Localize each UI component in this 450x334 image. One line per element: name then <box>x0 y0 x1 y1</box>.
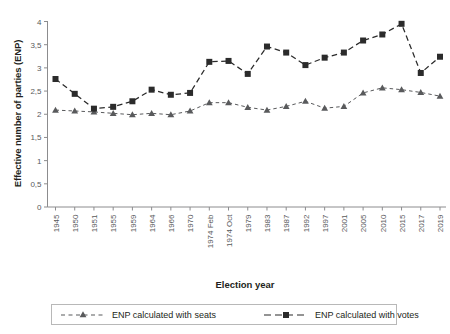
legend-item-votes[interactable]: ENP calculated with votes <box>263 305 419 324</box>
data-point-votes <box>129 98 135 104</box>
chart-figure: Effective number of parties (ENP) Electi… <box>0 0 450 334</box>
data-point-votes <box>322 55 328 61</box>
y-tick-label: 2,5 <box>30 87 42 96</box>
x-tick-label: 2019 <box>436 214 445 232</box>
x-tick-label: 1997 <box>321 214 330 232</box>
x-tick-label: 2017 <box>417 214 426 232</box>
data-point-seats <box>302 98 309 104</box>
x-tick-label: 1970 <box>186 214 195 232</box>
data-point-votes <box>283 50 289 56</box>
data-point-votes <box>399 21 405 27</box>
x-tick-label: 2010 <box>379 214 388 232</box>
x-tick-label: 1959 <box>129 214 138 232</box>
data-point-votes <box>437 54 443 60</box>
x-tick-label: 2001 <box>340 214 349 232</box>
y-tick-label: 0,5 <box>30 180 42 189</box>
data-point-votes <box>264 44 270 50</box>
legend-item-seats[interactable]: ENP calculated with seats <box>60 305 216 324</box>
legend-label-votes: ENP calculated with votes <box>315 310 419 320</box>
data-point-votes <box>379 31 385 37</box>
data-point-seats <box>148 110 155 116</box>
x-tick-label: 1966 <box>167 214 176 232</box>
data-point-seats <box>225 99 232 105</box>
x-tick-label: 1951 <box>90 214 99 232</box>
data-point-seats <box>340 103 347 109</box>
data-point-votes <box>360 38 366 44</box>
x-tick-label: 1974 Oct <box>225 214 234 247</box>
data-point-votes <box>168 92 174 98</box>
x-tick-label: 1945 <box>52 214 61 232</box>
data-point-votes <box>302 62 308 68</box>
data-point-votes <box>341 50 347 56</box>
y-tick-label: 1 <box>37 157 42 166</box>
y-tick-label: 1,5 <box>30 133 42 142</box>
data-point-votes <box>72 91 78 97</box>
x-tick-label: 1950 <box>71 214 80 232</box>
data-point-votes <box>226 58 232 64</box>
x-tick-label: 1983 <box>263 214 272 232</box>
data-point-votes <box>149 87 155 93</box>
data-point-votes <box>53 76 59 82</box>
x-tick-label: 2005 <box>359 214 368 232</box>
x-tick-label: 1979 <box>244 214 253 232</box>
y-tick-label: 3 <box>37 64 42 73</box>
y-tick-label: 0 <box>37 203 42 212</box>
legend-marker-triangle-icon <box>60 309 106 321</box>
data-point-votes <box>187 90 193 96</box>
data-point-seats <box>187 108 194 114</box>
y-tick-label: 4 <box>37 18 42 27</box>
x-tick-label: 2015 <box>398 214 407 232</box>
x-tick-label: 1955 <box>109 214 118 232</box>
legend-label-seats: ENP calculated with seats <box>112 310 216 320</box>
data-point-seats <box>244 104 251 110</box>
data-point-seats <box>52 107 59 113</box>
data-point-votes <box>418 70 424 76</box>
y-tick-label: 3,5 <box>30 41 42 50</box>
legend-marker-square-icon <box>263 309 309 321</box>
data-point-seats <box>71 108 78 114</box>
x-tick-label: 1992 <box>302 214 311 232</box>
data-point-votes <box>91 106 97 112</box>
plot-area: 00,511,522,533,5419451950195119551959196… <box>0 0 450 300</box>
x-tick-label: 1987 <box>282 214 291 232</box>
data-point-seats <box>321 105 328 111</box>
y-tick-label: 2 <box>37 110 42 119</box>
data-point-votes <box>206 59 212 65</box>
x-tick-label: 1974 Feb <box>206 214 215 248</box>
chart-legend: ENP calculated with seats ENP calculated… <box>51 304 397 325</box>
data-point-votes <box>245 71 251 77</box>
data-point-votes <box>110 104 116 110</box>
x-tick-label: 1964 <box>148 214 157 232</box>
data-point-seats <box>379 84 386 90</box>
